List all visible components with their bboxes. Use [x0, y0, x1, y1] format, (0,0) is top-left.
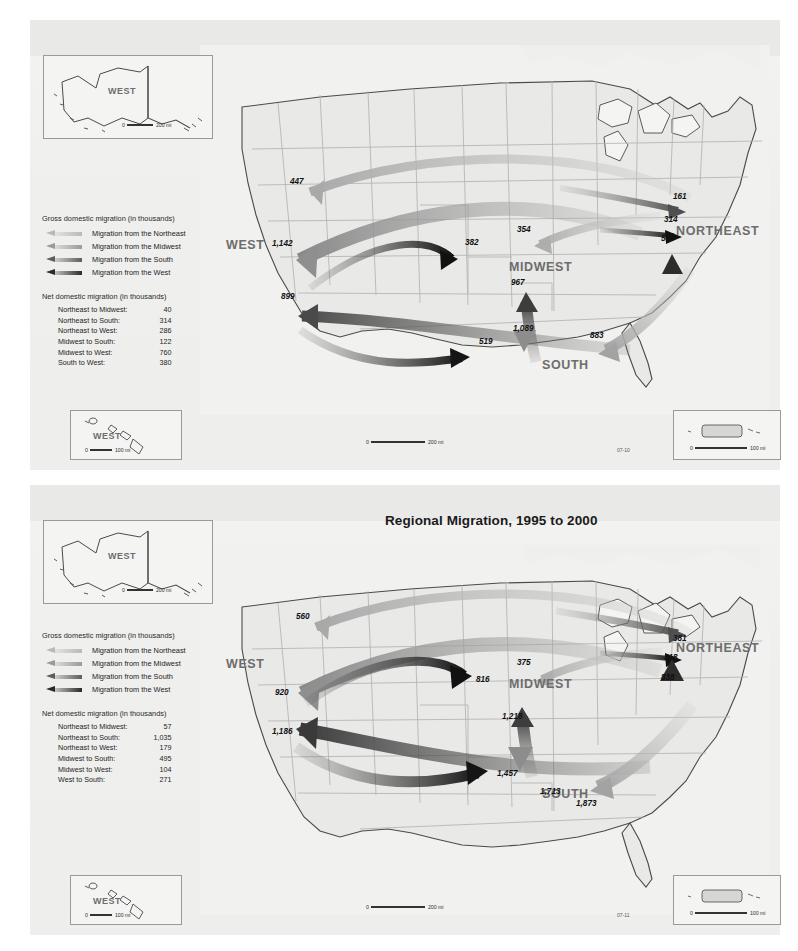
scale-text: 100 mi: [115, 447, 131, 453]
net-migration-row: Northeast to West:179: [58, 743, 172, 754]
legend-entry-label: Migration from the West: [92, 685, 170, 694]
arrow-swatch-icon: [46, 647, 82, 654]
net-migration-row: South to West:380: [58, 358, 172, 369]
legend-entry: Migration from the Midwest: [42, 658, 232, 669]
flow-value-south-to-west: 899: [281, 292, 295, 301]
puerto-rico-scalebar: 0 100 mi: [690, 445, 765, 451]
puerto-rico-inset: 0 100 mi: [673, 410, 781, 460]
flow-value-west-to-northeast: 314: [664, 215, 678, 224]
scale-zero: 0: [85, 447, 88, 453]
region-label-midwest: MIDWEST: [509, 677, 572, 691]
scale-zero: 0: [85, 912, 88, 918]
scale-text: 200 mi: [156, 122, 172, 128]
map-code: 07-10: [617, 447, 630, 453]
region-label-south: SOUTH: [542, 358, 589, 372]
net-migration-label: South to West:: [58, 358, 128, 369]
main-scalebar: 0 200 mi: [366, 439, 443, 445]
legend-entry-label: Migration from the Midwest: [92, 659, 181, 668]
net-migration-label: West to South:: [58, 775, 128, 786]
net-migration-row: Midwest to West:104: [58, 765, 172, 776]
legend-entries: Migration from the NortheastMigration fr…: [42, 645, 232, 695]
net-migration-value: 495: [128, 754, 172, 765]
net-migration-value: 57: [128, 722, 172, 733]
legend-entry-label: Migration from the South: [92, 672, 173, 681]
scale-zero: 0: [122, 122, 125, 128]
flow-value-west-to-midwest: 382: [465, 238, 479, 247]
map-panel-1995-2000: Regional Migration, 1995 to 2000: [0, 485, 798, 945]
arrow-swatch-icon: [46, 230, 82, 237]
hawaii-inset: WEST 0 100 mi: [70, 410, 182, 460]
net-migration-label: Midwest to West:: [58, 348, 128, 359]
flow-value-south-to-midwest: 967: [511, 278, 525, 287]
legend-entry-label: Migration from the Northeast: [92, 229, 186, 238]
alaska-inset: WEST 0 200 mi: [43, 55, 213, 139]
flow-value-south-to-west: 1,186: [272, 727, 293, 736]
flow-value-northeast-to-south: 1,873: [576, 799, 597, 808]
map-title: Regional Migration, 1995 to 2000: [385, 513, 598, 528]
arrow-swatch-icon: [46, 673, 82, 680]
flow-value-south-to-northeast: 838: [661, 673, 675, 682]
net-migration-row: Northeast to Midwest:57: [58, 722, 172, 733]
flow-value-south-to-northeast: 569: [661, 234, 675, 243]
legend-entry-label: Migration from the Northeast: [92, 646, 186, 655]
flow-value-northeast-to-south: 883: [590, 331, 604, 340]
map-panel-1955-1960: Regional Migration, 1955 to 1960: [0, 20, 798, 480]
flow-value-northeast-to-midwest: 375: [517, 658, 531, 667]
map-code: 07-11: [617, 912, 629, 918]
legend-gross-heading: Gross domestic migration (in thousands): [42, 631, 232, 640]
net-migration-row: Midwest to South:495: [58, 754, 172, 765]
net-migration-label: Northeast to West:: [58, 326, 128, 337]
scale-zero: 0: [366, 904, 369, 910]
arrow-swatch-icon: [46, 256, 82, 263]
net-migration-row: West to South:271: [58, 775, 172, 786]
net-migration-value: 122: [128, 337, 172, 348]
net-migration-table: Northeast to Midwest:57Northeast to Sout…: [58, 722, 172, 786]
net-migration-value: 760: [128, 348, 172, 359]
legend-net-heading: Net domestic migration (in thousands): [42, 709, 232, 718]
legend-entry: Migration from the Northeast: [42, 228, 232, 239]
net-migration-label: Midwest to South:: [58, 754, 128, 765]
net-migration-label: Northeast to Midwest:: [58, 722, 128, 733]
legend-gross-heading: Gross domestic migration (in thousands): [42, 214, 232, 223]
net-migration-value: 104: [128, 765, 172, 776]
net-migration-row: Midwest to West:760: [58, 348, 172, 359]
hawaii-inset-label: WEST: [93, 431, 121, 441]
puerto-rico-scalebar: 0 100 mi: [690, 910, 765, 916]
arrow-swatch-icon: [46, 660, 82, 667]
scale-text: 100 mi: [750, 445, 766, 451]
scale-text: 200 mi: [156, 587, 172, 593]
hawaii-inset: WEST 0 100 mi: [70, 875, 182, 925]
scale-text: 100 mi: [750, 910, 766, 916]
flow-value-northeast-to-west: 447: [290, 177, 304, 186]
net-migration-value: 179: [128, 743, 172, 754]
region-label-northeast: NORTHEAST: [676, 641, 759, 655]
net-migration-row: Northeast to West:286: [58, 326, 172, 337]
alaska-inset-label: WEST: [108, 86, 136, 96]
alaska-scalebar: 0 200 mi: [122, 587, 171, 593]
flow-value-northeast-to-west: 560: [296, 612, 310, 621]
net-migration-value: 286: [128, 326, 172, 337]
main-scalebar: 0 200 mi: [366, 904, 443, 910]
flow-value-midwest-to-west: 1,142: [272, 239, 293, 248]
net-migration-value: 314: [128, 316, 172, 327]
flow-value-midwest-to-northeast: 381: [673, 634, 687, 643]
alaska-inset: WEST 0 200 mi: [43, 520, 213, 604]
legend-entry-label: Migration from the West: [92, 268, 170, 277]
hawaii-scalebar: 0 100 mi: [85, 447, 130, 453]
legend-entry-label: Migration from the Midwest: [92, 242, 181, 251]
legend-entry: Migration from the West: [42, 267, 232, 278]
arrow-swatch-icon: [46, 243, 82, 250]
legend-entry: Migration from the South: [42, 254, 232, 265]
net-migration-label: Northeast to South:: [58, 316, 128, 327]
net-migration-row: Northeast to South:1,035: [58, 733, 172, 744]
flow-value-west-to-midwest: 816: [476, 675, 490, 684]
puerto-rico-inset: 0 100 mi: [673, 875, 781, 925]
arrow-swatch-icon: [46, 686, 82, 693]
scale-text: 100 mi: [115, 912, 131, 918]
net-migration-label: Northeast to Midwest:: [58, 305, 128, 316]
legend-entry: Migration from the Northeast: [42, 645, 232, 656]
net-migration-value: 380: [128, 358, 172, 369]
net-migration-row: Midwest to South:122: [58, 337, 172, 348]
flow-value-northeast-to-midwest: 354: [517, 225, 531, 234]
scale-zero: 0: [122, 587, 125, 593]
